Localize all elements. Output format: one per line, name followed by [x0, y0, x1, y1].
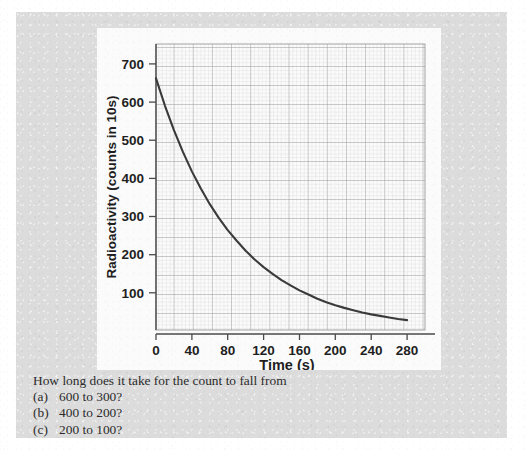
- x-tick-marks: [156, 334, 407, 340]
- y-tick-label: 300: [121, 209, 144, 224]
- y-tick-label: 700: [121, 57, 144, 72]
- question-marker: (c): [33, 422, 59, 438]
- y-tick-label: 100: [121, 286, 144, 301]
- scanned-page-sheet: 700 600 500 400 300 200 100: [16, 12, 507, 438]
- question-item-a: (a) 600 to 300?: [33, 389, 473, 405]
- question-text: 400 to 200?: [59, 405, 122, 421]
- figure-panel: 700 600 500 400 300 200 100: [97, 28, 441, 370]
- question-marker: (a): [33, 389, 59, 405]
- x-tick-label: 280: [396, 343, 419, 358]
- x-tick-label: 0: [152, 343, 160, 358]
- question-text: 200 to 100?: [59, 422, 122, 438]
- question-item-c: (c) 200 to 100?: [33, 422, 473, 438]
- x-axis-label: Time (s): [259, 357, 315, 371]
- y-tick-label: 200: [121, 247, 144, 262]
- question-item-b: (b) 400 to 200?: [33, 405, 473, 421]
- x-tick-label: 40: [184, 343, 199, 358]
- x-tick-label: 240: [360, 343, 383, 358]
- y-tick-marks: [149, 64, 156, 293]
- y-tick-label: 500: [121, 133, 144, 148]
- question-marker: (b): [33, 405, 59, 421]
- y-axis-label: Radioactivity (counts in 10s): [104, 95, 119, 278]
- y-tick-labels: 700 600 500 400 300 200 100: [121, 57, 144, 301]
- y-tick-label: 400: [121, 171, 144, 186]
- plot-grid: [156, 44, 425, 330]
- y-tick-label: 600: [121, 95, 144, 110]
- x-tick-label: 200: [324, 343, 347, 358]
- x-tick-label: 80: [220, 343, 235, 358]
- decay-chart: 700 600 500 400 300 200 100: [97, 28, 441, 370]
- question-block: How long does it take for the count to f…: [33, 373, 473, 438]
- question-prompt: How long does it take for the count to f…: [33, 373, 473, 389]
- question-text: 600 to 300?: [59, 389, 122, 405]
